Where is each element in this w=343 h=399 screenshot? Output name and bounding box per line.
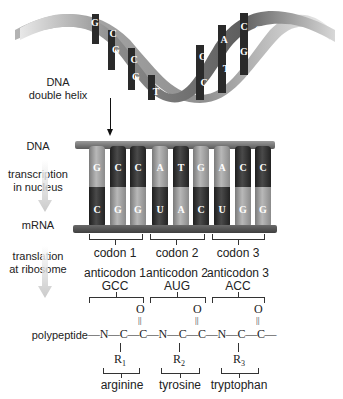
amino-acid-bracket xyxy=(221,368,259,374)
mrna-base: G xyxy=(235,204,251,215)
helix-base: C xyxy=(109,28,116,39)
dna-base: C xyxy=(110,162,126,173)
helix-base: G xyxy=(132,71,140,82)
dna-base: C xyxy=(130,162,146,173)
codon-bracket xyxy=(150,234,205,240)
label-line: double helix xyxy=(18,89,98,102)
anticodon-2: anticodon 2 AUG xyxy=(145,267,209,293)
mrna-base: G xyxy=(110,204,126,215)
helix-base: G xyxy=(199,51,207,62)
helix-base: T xyxy=(182,71,189,82)
dna-base: C xyxy=(235,162,251,173)
double-bond: || xyxy=(138,315,142,325)
anticodon-1: anticodon 1 GCC xyxy=(83,267,147,293)
dna-base: A xyxy=(152,162,168,173)
bond-line xyxy=(120,343,121,352)
dna-base: G xyxy=(89,162,105,173)
r-symbol: R xyxy=(233,352,241,366)
dna-double-helix-label: DNA double helix xyxy=(18,76,98,102)
mrna-base: C xyxy=(193,204,209,215)
mrna-label: mRNA xyxy=(8,219,68,232)
base-pair-bar: TA xyxy=(173,146,189,228)
helix-base: T xyxy=(223,63,230,74)
base-pair-bar: GC xyxy=(193,146,209,228)
amino-acid-label: arginine xyxy=(92,379,152,392)
r-group: R3 xyxy=(233,352,245,368)
dna-mrna-rack: GC CG CG AU TA GC AU CG CG xyxy=(75,141,275,233)
arrowhead-icon xyxy=(107,129,113,136)
helix-base: C xyxy=(200,77,207,88)
mrna-base: G xyxy=(130,204,146,215)
dna-base: T xyxy=(173,162,189,173)
peptide-backbone: —N—C—C—N—C—C—N—C—C— xyxy=(88,327,276,342)
codon-bracket xyxy=(89,234,143,240)
helix-base: G xyxy=(255,24,263,35)
codon-label: codon 2 xyxy=(147,247,207,260)
down-arrow-icon xyxy=(110,98,111,131)
dna-base: G xyxy=(193,162,209,173)
anticodon-sequence: GCC xyxy=(83,280,147,293)
codon-label: codon 1 xyxy=(85,247,145,260)
dna-base: C xyxy=(255,162,271,173)
bracket-tick xyxy=(176,240,177,245)
amino-acid-label: tryptophan xyxy=(204,379,274,392)
base-pair-bar: GC xyxy=(89,146,105,228)
helix-base: G xyxy=(240,46,248,57)
double-bond: || xyxy=(195,315,199,325)
bond-line xyxy=(238,343,239,352)
helix-base: T xyxy=(153,86,160,97)
anticodon-3: anticodon 3 ACC xyxy=(206,267,270,293)
base-pair-bar: AU xyxy=(152,146,168,228)
helix-base: G xyxy=(91,17,99,28)
mrna-base: U xyxy=(214,204,230,215)
helix-base: A xyxy=(220,34,228,45)
helix-base: G xyxy=(112,44,120,55)
base-pair-bar: AU xyxy=(214,146,230,228)
polypeptide-label: polypeptide xyxy=(22,329,88,342)
bracket-tick xyxy=(115,240,116,245)
codon-label: codon 3 xyxy=(208,247,268,260)
amino-acid-label: tyrosine xyxy=(150,379,210,392)
faded-arrow-icon xyxy=(38,160,52,212)
mrna-base: U xyxy=(152,204,168,215)
bond-line xyxy=(179,343,180,352)
r-symbol: R xyxy=(173,352,181,366)
base-pair-bar: CG xyxy=(130,146,146,228)
dna-base: A xyxy=(214,162,230,173)
r-symbol: R xyxy=(114,352,122,366)
dna-label: DNA xyxy=(8,140,68,153)
bracket-tick xyxy=(238,240,239,245)
faded-arrow-icon xyxy=(38,246,52,298)
base-pair-bar: CG xyxy=(110,146,126,228)
r-group: R2 xyxy=(173,352,185,368)
base-pair-bar: CG xyxy=(255,146,271,228)
mrna-base: C xyxy=(89,204,105,215)
base-pair-bar: CG xyxy=(235,146,251,228)
r-group: R1 xyxy=(114,352,126,368)
helix-base: C xyxy=(130,54,137,65)
mrna-base: A xyxy=(173,204,189,215)
rack-bottom-rail xyxy=(73,225,277,233)
mrna-base: G xyxy=(255,204,271,215)
helix-base: C xyxy=(240,21,247,32)
label-line: DNA xyxy=(18,76,98,89)
double-bond: || xyxy=(256,315,260,325)
